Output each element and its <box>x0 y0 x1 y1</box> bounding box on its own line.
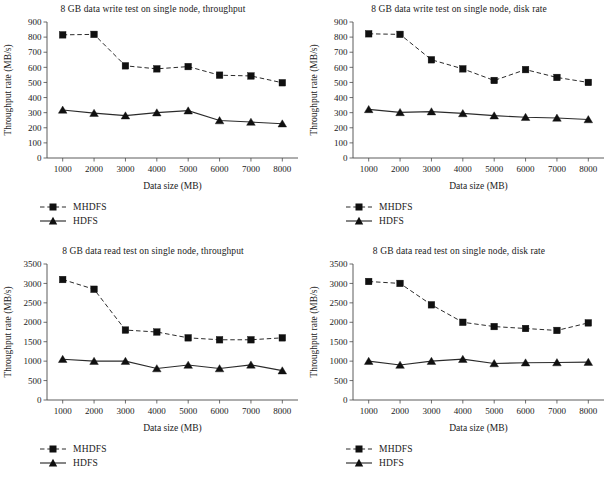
svg-text:3000: 3000 <box>24 279 43 289</box>
svg-text:5000: 5000 <box>179 164 198 174</box>
svg-text:4000: 4000 <box>454 164 473 174</box>
svg-text:700: 700 <box>28 47 42 57</box>
svg-text:4000: 4000 <box>148 406 167 416</box>
triangle-marker-icon <box>40 215 66 227</box>
triangle-marker-icon <box>346 457 372 469</box>
plot-area: 0100200300400500600700800900100020003000… <box>0 14 306 200</box>
svg-text:800: 800 <box>28 32 42 42</box>
chart-panel-write-disk-rate: 8 GB data write test on single node, dis… <box>306 0 612 242</box>
svg-text:5000: 5000 <box>485 406 504 416</box>
svg-text:2000: 2000 <box>391 164 410 174</box>
legend-label-hdfs: HDFS <box>73 214 98 228</box>
square-marker-icon <box>40 201 66 213</box>
svg-text:0: 0 <box>343 153 348 163</box>
svg-text:7000: 7000 <box>242 164 261 174</box>
svg-text:8000: 8000 <box>273 164 292 174</box>
svg-text:2000: 2000 <box>391 406 410 416</box>
figure-multi-panel-chart: 8 GB data write test on single node, thr… <box>0 0 613 484</box>
svg-text:8000: 8000 <box>579 164 598 174</box>
svg-text:300: 300 <box>334 108 348 118</box>
svg-text:Throughput rate (MB/s): Throughput rate (MB/s) <box>3 44 14 135</box>
svg-text:Data size (MB): Data size (MB) <box>449 423 508 434</box>
svg-text:4000: 4000 <box>454 406 473 416</box>
svg-text:5000: 5000 <box>485 164 504 174</box>
chart-panel-read-throughput: 8 GB data read test on single node, thro… <box>0 242 306 484</box>
svg-text:0: 0 <box>37 153 42 163</box>
legend-label-hdfs: HDFS <box>379 214 404 228</box>
svg-text:1000: 1000 <box>24 356 43 366</box>
svg-text:Throughput rate (MB/s): Throughput rate (MB/s) <box>309 44 320 135</box>
svg-text:400: 400 <box>334 93 348 103</box>
svg-text:1000: 1000 <box>54 406 73 416</box>
svg-text:0: 0 <box>343 395 348 405</box>
legend-item-mhdfs: MHDFS <box>40 442 107 456</box>
svg-text:100: 100 <box>28 138 42 148</box>
svg-text:0: 0 <box>37 395 42 405</box>
chart-title: 8 GB data write test on single node, dis… <box>306 4 612 14</box>
svg-text:Throughput rate (MB/s): Throughput rate (MB/s) <box>3 286 14 377</box>
legend-item-mhdfs: MHDFS <box>40 200 107 214</box>
svg-text:3000: 3000 <box>116 406 135 416</box>
svg-text:7000: 7000 <box>548 164 567 174</box>
triangle-marker-icon <box>346 215 372 227</box>
chart-panel-read-disk-rate: 8 GB data read test on single node, disk… <box>306 242 612 484</box>
svg-text:6000: 6000 <box>211 164 230 174</box>
svg-text:1000: 1000 <box>330 356 349 366</box>
legend-item-hdfs: HDFS <box>346 456 413 470</box>
legend-item-hdfs: HDFS <box>40 214 107 228</box>
svg-text:7000: 7000 <box>548 406 567 416</box>
chart-panel-write-throughput: 8 GB data write test on single node, thr… <box>0 0 306 242</box>
legend-item-hdfs: HDFS <box>346 214 413 228</box>
chart-title: 8 GB data read test on single node, disk… <box>306 246 612 256</box>
svg-text:1000: 1000 <box>360 164 379 174</box>
svg-text:600: 600 <box>334 63 348 73</box>
svg-text:600: 600 <box>28 63 42 73</box>
triangle-marker-icon <box>40 457 66 469</box>
chart-legend: MHDFS HDFS <box>346 200 413 228</box>
svg-text:1000: 1000 <box>360 406 379 416</box>
svg-text:500: 500 <box>28 376 42 386</box>
svg-text:1500: 1500 <box>24 337 43 347</box>
svg-text:8000: 8000 <box>273 406 292 416</box>
svg-text:300: 300 <box>28 108 42 118</box>
svg-text:3500: 3500 <box>24 259 43 269</box>
svg-text:700: 700 <box>334 47 348 57</box>
square-marker-icon <box>346 201 372 213</box>
chart-title: 8 GB data write test on single node, thr… <box>0 4 306 14</box>
svg-text:6000: 6000 <box>211 406 230 416</box>
svg-text:Data size (MB): Data size (MB) <box>449 181 508 192</box>
svg-text:4000: 4000 <box>148 164 167 174</box>
legend-item-mhdfs: MHDFS <box>346 442 413 456</box>
svg-text:3000: 3000 <box>116 164 135 174</box>
svg-text:3500: 3500 <box>330 259 349 269</box>
svg-text:Data size (MB): Data size (MB) <box>143 181 202 192</box>
legend-label-mhdfs: MHDFS <box>379 200 413 214</box>
svg-text:200: 200 <box>28 123 42 133</box>
legend-label-mhdfs: MHDFS <box>73 200 107 214</box>
svg-text:2500: 2500 <box>330 298 349 308</box>
plot-area: 0500100015002000250030003500100020003000… <box>306 256 612 442</box>
svg-text:500: 500 <box>334 376 348 386</box>
chart-title: 8 GB data read test on single node, thro… <box>0 246 306 256</box>
chart-legend: MHDFS HDFS <box>346 442 413 470</box>
square-marker-icon <box>40 443 66 455</box>
svg-text:5000: 5000 <box>179 406 198 416</box>
legend-label-hdfs: HDFS <box>379 456 404 470</box>
svg-text:400: 400 <box>28 93 42 103</box>
svg-text:Throughput rate (MB/s): Throughput rate (MB/s) <box>309 286 320 377</box>
legend-label-mhdfs: MHDFS <box>73 442 107 456</box>
svg-text:6000: 6000 <box>517 406 536 416</box>
svg-text:2000: 2000 <box>85 406 104 416</box>
svg-text:200: 200 <box>334 123 348 133</box>
svg-text:2000: 2000 <box>85 164 104 174</box>
svg-text:8000: 8000 <box>579 406 598 416</box>
legend-label-hdfs: HDFS <box>73 456 98 470</box>
svg-text:6000: 6000 <box>517 164 536 174</box>
legend-item-mhdfs: MHDFS <box>346 200 413 214</box>
legend-label-mhdfs: MHDFS <box>379 442 413 456</box>
svg-text:3000: 3000 <box>422 406 441 416</box>
svg-text:800: 800 <box>334 32 348 42</box>
svg-text:7000: 7000 <box>242 406 261 416</box>
svg-text:500: 500 <box>334 78 348 88</box>
plot-area: 0500100015002000250030003500100020003000… <box>0 256 306 442</box>
